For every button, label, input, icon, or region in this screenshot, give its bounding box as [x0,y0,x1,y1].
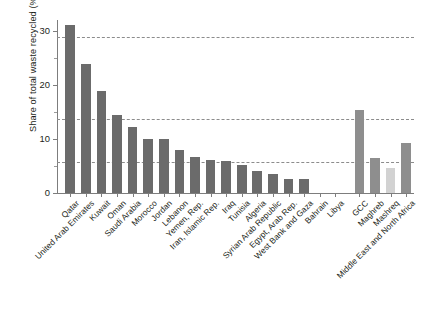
bar [237,165,247,193]
x-tick [195,193,196,197]
bar [284,179,294,193]
x-tick [70,193,71,197]
y-tick-mark [53,139,57,140]
x-axis-label: Libya [325,198,346,219]
x-tick [179,193,180,197]
x-tick [359,193,360,197]
x-tick [148,193,149,197]
bar [206,160,216,193]
y-tick-minor-25 [54,58,57,59]
y-tick-mark [53,193,57,194]
x-tick [320,193,321,197]
gridline-2 [57,37,414,38]
y-axis-title: Share of total waste recycled (%) [28,0,38,158]
y-tick-label: 10 [40,133,50,144]
bar [65,25,75,193]
bar [370,158,380,193]
x-tick [86,193,87,197]
x-tick [164,193,165,197]
bar [112,115,122,193]
chart-figure: Share of total waste recycled (%) 010203… [0,0,430,313]
bar [97,91,107,193]
bar [299,179,309,193]
x-tick [211,193,212,197]
x-tick [117,193,118,197]
bar [128,127,138,193]
x-tick [257,193,258,197]
bar [355,110,365,193]
bar [268,174,278,193]
x-tick [335,193,336,197]
x-tick [406,193,407,197]
bar [143,139,153,193]
bar [175,150,185,193]
y-tick-mark [53,31,57,32]
bar [252,171,262,193]
y-tick-label: 30 [40,25,50,36]
y-axis-line [57,20,58,193]
x-tick [289,193,290,197]
x-tick [375,193,376,197]
x-tick [101,193,102,197]
x-tick [273,193,274,197]
x-tick [391,193,392,197]
y-tick-minor-5 [54,166,57,167]
y-tick-label: 20 [40,79,50,90]
x-tick [133,193,134,197]
x-tick [242,193,243,197]
bar [81,64,91,193]
y-tick-minor-15 [54,112,57,113]
bar [221,161,231,193]
x-tick [226,193,227,197]
bar [386,168,396,193]
bar [401,143,411,193]
y-tick-mark [53,85,57,86]
y-tick-label: 0 [45,187,50,198]
bar [190,157,200,193]
bar [159,139,169,193]
plot-area: 0102030 [57,20,414,193]
x-tick [304,193,305,197]
